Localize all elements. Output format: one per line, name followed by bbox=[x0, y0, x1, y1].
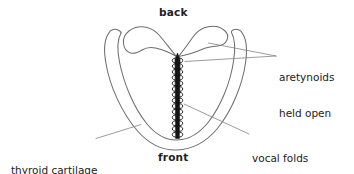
arytenoid-left-shape bbox=[123, 27, 176, 57]
annotation-label-thyroid-cartilage: thyroid cartilage bbox=[11, 140, 97, 174]
leader-line-arytenoid-upper bbox=[209, 43, 277, 56]
diagram-canvas: back front thyroid cartilage aretynoids … bbox=[0, 0, 354, 174]
annotation-line: held open bbox=[279, 107, 334, 119]
leader-lines bbox=[96, 43, 276, 139]
annotation-line: aretynoids bbox=[279, 71, 334, 83]
leader-line-thyroid-cartilage bbox=[96, 125, 141, 139]
orientation-label-front: front bbox=[158, 151, 188, 163]
leader-line-arytenoid-lower bbox=[185, 56, 276, 62]
vocal-folds-shape bbox=[172, 53, 182, 139]
arytenoid-right-shape bbox=[179, 26, 228, 56]
annotation-line: vocal folds bbox=[252, 152, 308, 164]
annotation-label-vocal-folds: vocal folds vibrating bbox=[252, 128, 308, 174]
orientation-label-back: back bbox=[159, 6, 188, 18]
annotation-line: thyroid cartilage bbox=[11, 164, 97, 174]
